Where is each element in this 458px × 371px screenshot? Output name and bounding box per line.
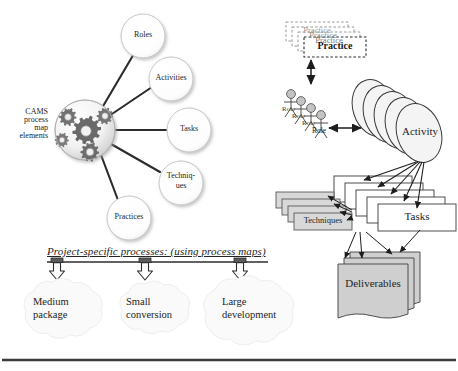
cams-process-map-figure: CAMS process map elements Roles Activiti… bbox=[0, 0, 458, 371]
deliverables-doc-3 bbox=[338, 264, 408, 318]
node-circle-practices[interactable] bbox=[107, 196, 151, 240]
role-figure-4 bbox=[314, 111, 328, 138]
process-clouds bbox=[24, 276, 294, 345]
gear-globe-icon bbox=[55, 100, 115, 162]
spoke-roles bbox=[99, 52, 135, 113]
activity-stack[interactable] bbox=[345, 74, 449, 168]
diagram-canvas bbox=[0, 0, 458, 371]
role-figure-3 bbox=[304, 104, 318, 131]
band-arrow-small bbox=[138, 258, 153, 280]
techniques-box-4 bbox=[294, 213, 352, 230]
role-stack[interactable] bbox=[284, 90, 328, 138]
node-circle-roles[interactable] bbox=[121, 14, 165, 58]
cloud-large-development[interactable] bbox=[204, 276, 294, 345]
role-figure-2 bbox=[294, 97, 308, 124]
deliverables-stack[interactable] bbox=[338, 252, 420, 318]
cloud-medium-package[interactable] bbox=[24, 278, 102, 338]
practice-stack[interactable] bbox=[286, 22, 366, 57]
process-band-connector bbox=[47, 258, 268, 280]
node-circle-techniques[interactable] bbox=[159, 161, 203, 205]
tasks-box-5 bbox=[378, 204, 456, 231]
node-circle-tasks[interactable] bbox=[167, 108, 211, 152]
band-arrow-medium bbox=[50, 258, 65, 280]
node-circle-activities[interactable] bbox=[149, 57, 193, 101]
practice-box-4 bbox=[304, 37, 366, 57]
cloud-small-conversion[interactable] bbox=[120, 281, 190, 334]
spoke-techniques bbox=[104, 140, 160, 172]
role-figure-1 bbox=[284, 90, 298, 117]
element-node-circles bbox=[107, 14, 211, 240]
